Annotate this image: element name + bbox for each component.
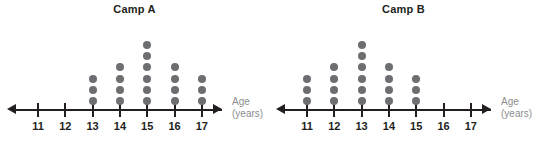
axis-caption-age: Age (years) <box>232 96 263 120</box>
axis-tick-label-12: 12 <box>52 120 78 132</box>
axis-caption-line-2: (years) <box>232 108 263 120</box>
data-dot <box>171 97 179 105</box>
data-dot <box>385 63 393 71</box>
data-dot <box>143 52 151 60</box>
data-dot <box>143 75 151 83</box>
axis-arrow-left-icon <box>276 104 285 114</box>
axis-caption-line-1: Age <box>501 96 532 108</box>
axis-tick-label-12: 12 <box>321 120 347 132</box>
data-dot <box>412 75 420 83</box>
data-dot <box>330 63 338 71</box>
data-dot <box>412 97 420 105</box>
data-dot <box>412 86 420 94</box>
data-dot <box>143 63 151 71</box>
data-dot <box>198 75 206 83</box>
data-dot <box>358 75 366 83</box>
axis-tick-12 <box>64 103 66 117</box>
data-dot <box>358 52 366 60</box>
axis-tick-14 <box>119 103 121 117</box>
axis-tick-label-14: 14 <box>107 120 133 132</box>
data-dot <box>358 41 366 49</box>
axis-tick-label-17: 17 <box>458 120 484 132</box>
axis-tick-14 <box>388 103 390 117</box>
axis-tick-17 <box>201 103 203 117</box>
data-dot <box>198 86 206 94</box>
data-dot <box>385 97 393 105</box>
data-dot <box>358 97 366 105</box>
plot-title-camp-b: Camp B <box>269 3 538 15</box>
data-dot <box>358 86 366 94</box>
data-dot <box>330 75 338 83</box>
data-dot <box>143 41 151 49</box>
axis-tick-11 <box>306 103 308 117</box>
axis-tick-label-11: 11 <box>294 120 320 132</box>
axis-caption-line-2: (years) <box>501 108 532 120</box>
axis-tick-11 <box>37 103 39 117</box>
data-dot <box>171 63 179 71</box>
axis-tick-15 <box>146 103 148 117</box>
axis-tick-16 <box>443 103 445 117</box>
data-dot <box>303 75 311 83</box>
data-dot <box>89 97 97 105</box>
axis-tick-16 <box>174 103 176 117</box>
data-dot <box>116 75 124 83</box>
axis-tick-13 <box>92 103 94 117</box>
axis-tick-label-15: 15 <box>134 120 160 132</box>
axis-tick-label-13: 13 <box>349 120 375 132</box>
data-dot <box>143 97 151 105</box>
data-dot <box>89 75 97 83</box>
data-dot <box>198 97 206 105</box>
axis-tick-12 <box>333 103 335 117</box>
axis-arrow-right-icon <box>213 104 222 114</box>
axis-tick-label-16: 16 <box>431 120 457 132</box>
data-dot <box>358 63 366 71</box>
axis-arrow-left-icon <box>7 104 16 114</box>
dot-plot-camp-b: Camp B 11121314151617 Age (years) <box>269 0 538 143</box>
data-dot <box>171 75 179 83</box>
axis-tick-15 <box>415 103 417 117</box>
data-dot <box>171 86 179 94</box>
data-dot <box>143 86 151 94</box>
dot-plot-camp-a: Camp A 11121314151617 Age (years) <box>0 0 269 143</box>
data-dot <box>116 97 124 105</box>
data-dot <box>116 86 124 94</box>
axis-caption-line-1: Age <box>232 96 263 108</box>
axis-tick-13 <box>361 103 363 117</box>
axis-tick-17 <box>470 103 472 117</box>
axis-tick-label-11: 11 <box>25 120 51 132</box>
axis-tick-label-15: 15 <box>403 120 429 132</box>
axis-caption-age: Age (years) <box>501 96 532 120</box>
axis-tick-label-13: 13 <box>80 120 106 132</box>
data-dot <box>116 63 124 71</box>
axis-tick-label-16: 16 <box>162 120 188 132</box>
data-dot <box>330 86 338 94</box>
data-dot <box>385 86 393 94</box>
axis-tick-label-14: 14 <box>376 120 402 132</box>
axis-tick-label-17: 17 <box>189 120 215 132</box>
axis-arrow-right-icon <box>482 104 491 114</box>
data-dot <box>89 86 97 94</box>
data-dot <box>385 75 393 83</box>
data-dot <box>303 86 311 94</box>
data-dot <box>303 97 311 105</box>
plot-title-camp-a: Camp A <box>0 3 269 15</box>
data-dot <box>330 97 338 105</box>
